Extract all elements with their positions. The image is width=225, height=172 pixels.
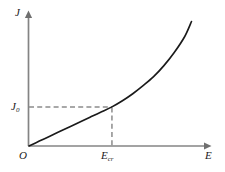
j0-threshold-label: J0 xyxy=(11,101,19,112)
y-axis-arrowhead xyxy=(25,11,32,19)
origin-label: O xyxy=(19,150,27,161)
je-curve xyxy=(29,22,192,147)
jе-characteristic-figure: J J0 O Ecr E xyxy=(0,0,225,172)
plot-canvas xyxy=(0,0,225,172)
ecr-threshold-label: Ecr xyxy=(101,150,114,161)
y-axis-label: J xyxy=(15,7,20,18)
ecr-symbol: E xyxy=(101,149,108,161)
ecr-subscript: cr xyxy=(108,155,114,163)
j0-subscript: 0 xyxy=(16,106,20,114)
x-axis-label: E xyxy=(205,150,212,161)
